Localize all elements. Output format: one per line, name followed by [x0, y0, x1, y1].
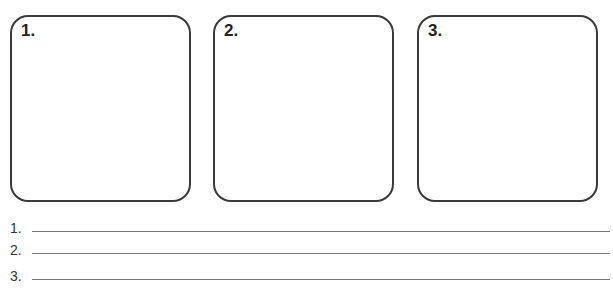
answer-line-2[interactable]: 2.	[10, 240, 610, 260]
drawing-panel-2: 2.	[213, 15, 394, 202]
writing-rule	[32, 279, 610, 280]
answer-line-3[interactable]: 3.	[10, 266, 610, 286]
panel-number: 1.	[21, 21, 35, 41]
answer-line-1[interactable]: 1.	[10, 218, 610, 238]
line-number: 1.	[10, 220, 22, 236]
writing-rule	[32, 231, 610, 232]
writing-rule	[32, 253, 610, 254]
panel-number: 2.	[224, 21, 238, 41]
panel-number: 3.	[428, 21, 442, 41]
line-number: 3.	[10, 268, 22, 284]
line-number: 2.	[10, 242, 22, 258]
drawing-panel-3: 3.	[417, 15, 598, 202]
drawing-panel-1: 1.	[10, 15, 191, 202]
